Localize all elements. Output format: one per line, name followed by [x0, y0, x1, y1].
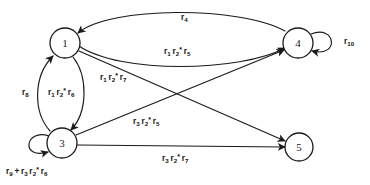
node-5-label: 5 — [296, 141, 302, 153]
node-1-label: 1 — [62, 37, 68, 49]
node-4-label: 4 — [295, 37, 301, 49]
edge-4-self-loop — [311, 32, 331, 52]
edge-label-e-3-3: r9+r3r2*r6 — [6, 168, 47, 176]
edge-label-e-1-4: r1r2*r5 — [164, 48, 191, 56]
node-4[interactable]: 4 — [283, 28, 313, 58]
node-3[interactable]: 3 — [47, 128, 77, 158]
edge-label-e-1-3: r1r2*r6 — [48, 89, 75, 97]
edge-3-self-loop — [29, 135, 49, 154]
edge-1-to-5 — [79, 51, 285, 141]
edge-label-e-1-5: r1r2*r7 — [100, 74, 127, 82]
edge-label-e-4-1: r4 — [181, 14, 188, 22]
edge-label-e-3-1: r8 — [22, 89, 29, 97]
edge-3-to-5 — [77, 145, 285, 147]
state-diagram: 1 3 4 5 r4r1r2*r5r1r2*r6r8r1r2*r7r3r2*r5… — [0, 0, 370, 185]
edge-label-e-3-5: r3r2*r7 — [162, 155, 189, 163]
edge-label-e-3-4: r3r2*r5 — [133, 118, 160, 126]
node-1[interactable]: 1 — [50, 28, 80, 58]
node-3-label: 3 — [59, 137, 65, 149]
node-5[interactable]: 5 — [285, 133, 313, 161]
edge-label-e-4-4: r10 — [344, 38, 354, 46]
